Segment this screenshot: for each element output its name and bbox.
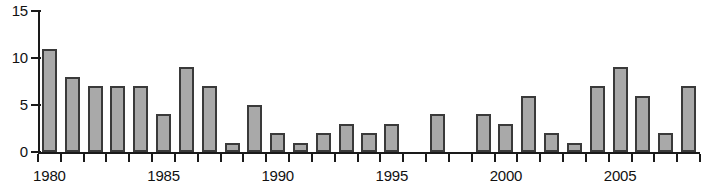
x-axis-tick [220, 154, 222, 162]
x-axis-tick-label: 1985 [134, 168, 194, 184]
bar [88, 86, 103, 152]
bar [635, 96, 650, 152]
x-axis-tick [494, 154, 496, 162]
bar [133, 86, 148, 152]
x-axis-tick [357, 154, 359, 162]
x-axis-tick [539, 154, 541, 162]
x-axis-tick [425, 154, 427, 162]
x-axis-tick [653, 154, 655, 162]
x-axis-tick [471, 154, 473, 162]
x-axis-tick-label: 2000 [476, 168, 536, 184]
bar [498, 124, 513, 152]
bar [293, 143, 308, 152]
bar [521, 96, 536, 152]
x-axis-tick [676, 154, 678, 162]
bar [270, 133, 285, 152]
bar [42, 49, 57, 152]
x-axis-tick [265, 154, 267, 162]
x-axis-tick [334, 154, 336, 162]
bar [681, 86, 696, 152]
x-axis-tick [448, 154, 450, 162]
x-axis-tick [60, 154, 62, 162]
bar [247, 105, 262, 152]
x-axis-tick-label: 1980 [19, 168, 79, 184]
x-axis-tick [699, 154, 701, 162]
x-axis-tick [608, 154, 610, 162]
bar [361, 133, 376, 152]
x-axis-tick [402, 154, 404, 162]
bar [65, 77, 80, 152]
bar [339, 124, 354, 152]
bar [430, 114, 445, 152]
bar [179, 67, 194, 152]
x-axis-tick [631, 154, 633, 162]
x-axis-tick-label: 2005 [590, 168, 650, 184]
x-axis-tick [197, 154, 199, 162]
x-axis-tick-label: 1995 [362, 168, 422, 184]
bar [613, 67, 628, 152]
bar [567, 143, 582, 152]
bars-layer [0, 0, 703, 193]
bar [110, 86, 125, 152]
x-axis-tick [37, 154, 39, 162]
x-axis-tick [242, 154, 244, 162]
bar [316, 133, 331, 152]
x-axis-tick [311, 154, 313, 162]
bar [658, 133, 673, 152]
bar [590, 86, 605, 152]
x-axis-tick-label: 1990 [248, 168, 308, 184]
x-axis-tick [105, 154, 107, 162]
x-axis-tick [151, 154, 153, 162]
x-axis-tick [379, 154, 381, 162]
x-axis-tick [516, 154, 518, 162]
bar-chart: 051015 198019851990199520002005 [0, 0, 703, 193]
bar [202, 86, 217, 152]
x-axis-tick [585, 154, 587, 162]
bar [156, 114, 171, 152]
x-axis-tick [83, 154, 85, 162]
x-axis-tick [562, 154, 564, 162]
bar [225, 143, 240, 152]
bar [544, 133, 559, 152]
bar [384, 124, 399, 152]
x-axis-tick [128, 154, 130, 162]
x-axis-line [38, 152, 700, 154]
bar [476, 114, 491, 152]
x-axis-tick [288, 154, 290, 162]
x-axis-tick [174, 154, 176, 162]
